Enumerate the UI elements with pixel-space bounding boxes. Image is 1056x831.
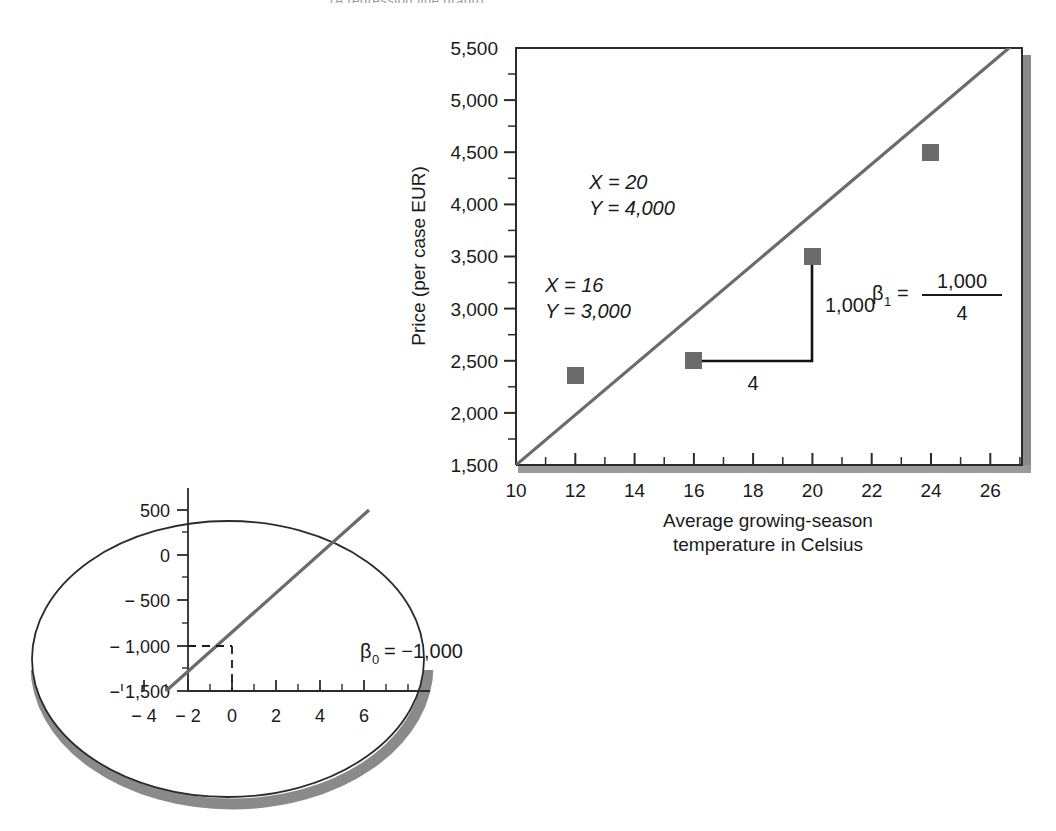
main-x-minor-ticks <box>546 457 1020 465</box>
slope-formula-numerator: 1,000 <box>937 270 987 292</box>
slope-formula-subscript: 1 <box>884 294 891 309</box>
inset-y-tick-label: 0 <box>160 546 170 566</box>
inset-x-tick-label: − 2 <box>175 706 201 726</box>
main-chart-shadow-bottom <box>518 465 1031 473</box>
annotation-rise-label: 1,000 <box>825 294 875 316</box>
main-y-tick-marks <box>504 100 516 413</box>
intercept-formula-beta: β <box>360 640 372 662</box>
inset-x-tick-label: − 4 <box>131 706 157 726</box>
slope-triangle <box>694 257 812 361</box>
main-y-tick-label: 1,500 <box>450 455 498 476</box>
inset-x-tick-label: 6 <box>359 706 369 726</box>
main-x-tick-label: 22 <box>861 480 882 501</box>
inset-y-tick-label: − 1,000 <box>109 637 170 657</box>
annotation-point-b-y: Y = 4,000 <box>589 197 675 219</box>
figure-svg: 5,500 5,000 4,500 4,000 3,500 3,000 2,50… <box>0 0 1056 831</box>
inset-y-tick-label: 500 <box>140 501 170 521</box>
main-y-tick-label: 4,000 <box>450 194 498 215</box>
slope-formula-denominator: 4 <box>956 302 967 324</box>
annotation-point-a-y: Y = 3,000 <box>545 300 631 322</box>
inset-chart: 500 0 − 500 − 1,000 − 1,500 − 4 − 2 0 <box>20 470 463 804</box>
data-point-marker <box>685 352 702 369</box>
main-chart: 5,500 5,000 4,500 4,000 3,500 3,000 2,50… <box>408 37 1031 555</box>
main-x-tick-label: 24 <box>920 480 942 501</box>
main-y-tick-label: 5,000 <box>450 90 498 111</box>
annotation-point-b-x: X = 20 <box>588 171 647 193</box>
main-x-tick-label: 16 <box>683 480 704 501</box>
main-y-axis-title: Price (per case EUR) <box>408 166 429 346</box>
slope-formula-beta: β <box>872 282 884 304</box>
main-y-tick-label: 4,500 <box>450 142 498 163</box>
inset-y-tick-label: − 500 <box>124 591 170 611</box>
slope-formula: β 1 = 1,000 4 <box>872 270 1002 324</box>
data-point-marker <box>567 367 584 384</box>
intercept-formula-value: = −1,000 <box>384 640 463 662</box>
main-y-tick-label: 3,000 <box>450 299 498 320</box>
main-x-tick-label: 14 <box>624 480 646 501</box>
main-x-tick-label: 26 <box>980 480 1001 501</box>
regression-line <box>516 37 1022 465</box>
inset-x-tick-label: 0 <box>227 706 237 726</box>
main-x-tick-label: 18 <box>743 480 764 501</box>
data-point-marker <box>804 248 821 265</box>
data-point-marker <box>922 144 939 161</box>
main-x-tick-label: 20 <box>802 480 823 501</box>
annotation-run-label: 4 <box>747 372 758 394</box>
main-chart-shadow-right <box>1022 55 1031 472</box>
main-y-tick-label: 3,500 <box>450 246 498 267</box>
slope-formula-equals: = <box>897 282 909 304</box>
annotation-point-a-x: X = 16 <box>544 274 604 296</box>
main-x-axis-title-line1: Average growing-season <box>663 510 873 531</box>
inset-x-tick-label: 2 <box>271 706 281 726</box>
inset-y-tick-label: − 1,500 <box>109 682 170 702</box>
inset-x-tick-label: 4 <box>315 706 325 726</box>
main-y-tick-label: 2,000 <box>450 403 498 424</box>
main-y-tick-label: 5,500 <box>450 38 498 59</box>
intercept-formula-subscript: 0 <box>372 652 379 667</box>
figure-stage: 5,500 5,000 4,500 4,000 3,500 3,000 2,50… <box>0 0 1056 831</box>
main-x-tick-label: 10 <box>505 480 526 501</box>
main-x-tick-label: 12 <box>565 480 586 501</box>
main-x-axis-title-line2: temperature in Celsius <box>673 534 863 555</box>
main-y-tick-label: 2,500 <box>450 351 498 372</box>
